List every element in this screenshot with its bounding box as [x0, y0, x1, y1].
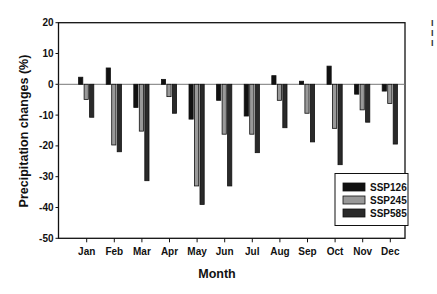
bar-ssp126-feb [106, 68, 110, 84]
bar-ssp245-sep [305, 84, 309, 113]
cropped-glyph: I [431, 28, 434, 38]
bar-ssp585-may [200, 84, 204, 204]
x-tick-label-jan: Jan [78, 246, 95, 257]
x-tick-label-aug: Aug [270, 246, 289, 257]
x-tick-label-nov: Nov [353, 246, 372, 257]
bar-ssp585-oct [338, 84, 342, 164]
bar-ssp245-jun [222, 84, 226, 134]
legend-label-ssp585: SSP585 [370, 208, 407, 219]
bar-ssp585-sep [310, 84, 314, 142]
bar-ssp585-jul [255, 84, 259, 152]
bar-ssp245-may [195, 84, 199, 186]
legend-swatch-ssp245 [343, 196, 365, 204]
x-tick-label-feb: Feb [105, 246, 123, 257]
precipitation-bar-chart: 20100-10-20-30-40-50 JanFebMarAprMayJunJ… [0, 0, 437, 294]
bar-ssp585-jan [90, 84, 94, 117]
bar-ssp126-dec [382, 84, 386, 91]
y-tick-label: -30 [39, 171, 54, 182]
bar-ssp126-jan [79, 77, 83, 84]
bar-ssp245-jan [84, 84, 88, 99]
bar-ssp585-nov [366, 84, 370, 122]
bar-ssp126-jul [244, 84, 248, 116]
bar-ssp126-jun [217, 84, 221, 100]
x-tick-label-apr: Apr [161, 246, 178, 257]
x-axis-title: Month [198, 267, 235, 281]
x-tick-label-oct: Oct [327, 246, 344, 257]
bar-ssp245-jul [250, 84, 254, 134]
bar-ssp126-aug [272, 76, 276, 85]
bar-ssp585-feb [117, 84, 121, 151]
cropped-glyph: I [431, 38, 434, 48]
bar-ssp126-mar [134, 84, 138, 107]
bar-ssp126-may [189, 84, 193, 119]
bar-ssp126-oct [327, 66, 331, 84]
legend-label-ssp245: SSP245 [370, 195, 407, 206]
bar-ssp585-apr [172, 84, 176, 113]
y-tick-label: 0 [48, 79, 54, 90]
cropped-side-text: III [431, 18, 434, 48]
bar-ssp245-aug [277, 84, 281, 100]
bar-ssp245-dec [388, 84, 392, 103]
x-tick-label-sep: Sep [298, 246, 316, 257]
y-tick-label: -50 [39, 233, 54, 244]
legend: SSP126SSP245SSP585 [335, 174, 408, 226]
y-tick-label: 20 [42, 17, 54, 28]
bar-ssp585-jun [228, 84, 232, 186]
x-tick-label-may: May [187, 246, 207, 257]
y-axis-title: Precipitation changes (%) [17, 55, 31, 208]
y-tick-label: -20 [39, 140, 54, 151]
bar-ssp585-mar [145, 84, 149, 180]
cropped-glyph: I [431, 18, 434, 28]
bar-ssp245-nov [360, 84, 364, 110]
bar-ssp126-apr [161, 79, 165, 84]
y-axis: 20100-10-20-30-40-50 [39, 17, 58, 244]
legend-label-ssp126: SSP126 [370, 182, 407, 193]
legend-swatch-ssp126 [343, 183, 365, 191]
bar-ssp245-oct [333, 84, 337, 128]
x-tick-label-jun: Jun [216, 246, 234, 257]
bar-ssp126-nov [355, 84, 359, 94]
bar-ssp126-sep [299, 81, 303, 84]
x-axis: JanFebMarAprMayJunJulAugSepOctNovDec [78, 238, 400, 257]
bar-ssp245-apr [167, 84, 171, 96]
x-tick-label-jul: Jul [245, 246, 260, 257]
bar-ssp585-dec [393, 84, 397, 144]
legend-swatch-ssp585 [343, 209, 365, 217]
y-tick-label: -10 [39, 110, 54, 121]
y-tick-label: 10 [42, 48, 54, 59]
bar-ssp245-mar [139, 84, 143, 131]
bar-ssp245-feb [112, 84, 116, 145]
x-tick-label-mar: Mar [133, 246, 151, 257]
bar-ssp585-aug [283, 84, 287, 127]
y-tick-label: -40 [39, 202, 54, 213]
x-tick-label-dec: Dec [381, 246, 400, 257]
